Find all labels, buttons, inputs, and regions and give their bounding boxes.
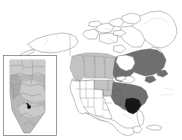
region-british-columbia xyxy=(70,55,85,81)
graticule-faint xyxy=(160,88,174,95)
region-maritimes xyxy=(145,76,156,83)
region-alberta xyxy=(84,56,95,78)
inset-band-north xyxy=(10,60,45,75)
north-america-map xyxy=(0,0,182,140)
alberta-inset-group xyxy=(4,50,57,136)
florida-peninsula xyxy=(137,110,144,126)
yucatan-peninsula xyxy=(133,126,142,133)
region-mississippi-valley xyxy=(111,90,122,106)
alaska-landmass xyxy=(28,33,78,53)
gulf-of-mexico-outline xyxy=(122,113,136,124)
region-newfoundland xyxy=(157,70,168,77)
region-saskatchewan xyxy=(95,56,105,78)
study-site-marker xyxy=(27,105,30,108)
map-figure: North America distribution map with Albe… xyxy=(0,0,182,140)
arctic-island-southampton xyxy=(114,45,126,53)
cuba-island xyxy=(147,125,162,130)
region-dakotas xyxy=(94,80,108,90)
